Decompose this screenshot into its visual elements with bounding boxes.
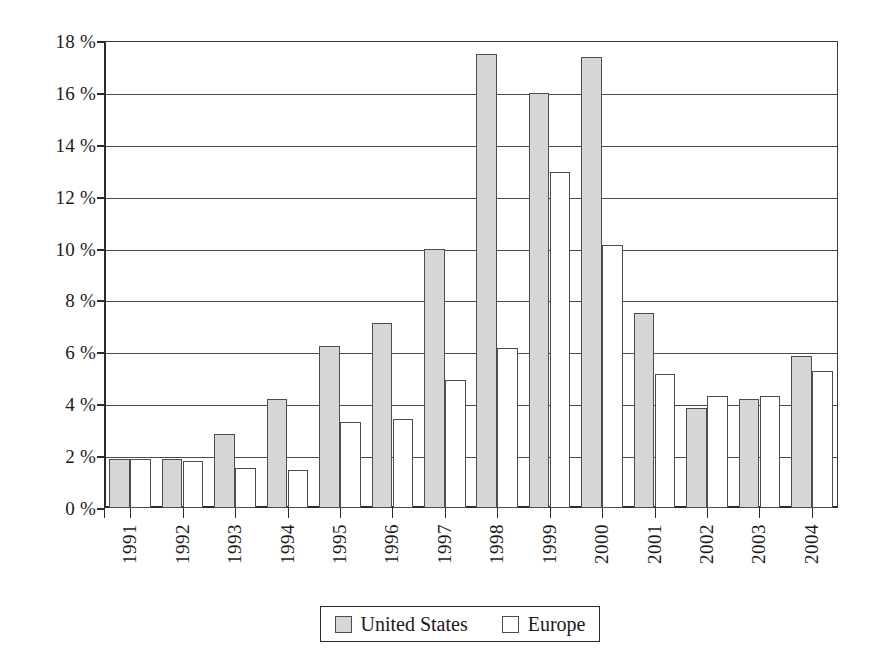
x-axis-tick-label: 2002 — [697, 524, 716, 564]
gridline — [106, 250, 837, 251]
gridline — [106, 146, 837, 147]
x-axis-tick-label: 1997 — [435, 524, 454, 564]
x-axis-tick-mark — [445, 508, 446, 518]
x-axis-tick-label: 1993 — [225, 524, 244, 564]
x-axis-tick-mark — [130, 508, 131, 518]
y-axis-tick-mark — [97, 456, 104, 458]
x-axis-tick-mark — [183, 508, 184, 518]
gridline — [106, 353, 837, 354]
y-axis-tick-label: 10 % — [56, 239, 96, 258]
x-axis-tick-label: 1992 — [173, 524, 192, 564]
legend-entry-united-states: United States — [335, 614, 468, 634]
x-axis-tick-mark — [602, 508, 603, 518]
legend-label-europe: Europe — [528, 614, 586, 634]
y-axis-tick-label: 4 % — [65, 395, 96, 414]
x-axis-tick-mark — [235, 508, 236, 518]
y-axis-tick-mark — [97, 508, 104, 510]
bar-chart: 0 %2 %4 %6 %8 %10 %12 %14 %16 %18 % 1991… — [0, 0, 872, 654]
gridline — [106, 457, 837, 458]
y-axis-tick-label: 14 % — [56, 135, 96, 154]
x-axis-tick-label: 2004 — [802, 524, 821, 564]
x-axis-tick-label: 1991 — [120, 524, 139, 564]
y-axis-tick-mark — [97, 145, 104, 147]
legend-label-united-states: United States — [361, 614, 468, 634]
x-axis-tick-label: 2000 — [592, 524, 611, 564]
legend: United States Europe — [320, 606, 600, 642]
x-axis-tick-label: 2001 — [645, 524, 664, 564]
x-axis-tick-mark — [104, 508, 105, 518]
x-axis-tick-mark — [759, 508, 760, 518]
plot-area — [104, 41, 838, 508]
x-axis-tick-mark — [550, 508, 551, 518]
legend-swatch-united-states — [335, 616, 352, 633]
y-axis-tick-mark — [97, 197, 104, 199]
y-axis-tick-label: 12 % — [56, 187, 96, 206]
x-axis-tick-mark — [392, 508, 393, 518]
y-axis-tick-mark — [97, 93, 104, 95]
x-axis-tick-label: 1998 — [487, 524, 506, 564]
x-axis-tick-label: 1996 — [382, 524, 401, 564]
y-axis-tick-label: 16 % — [56, 83, 96, 102]
x-axis-tick-label: 2003 — [749, 524, 768, 564]
y-axis-tick-label: 6 % — [65, 343, 96, 362]
y-axis-tick-label: 2 % — [65, 447, 96, 466]
y-axis-tick-label: 18 % — [56, 32, 96, 51]
gridline — [106, 405, 837, 406]
x-axis-tick-label: 1999 — [540, 524, 559, 564]
legend-swatch-europe — [502, 616, 519, 633]
y-axis-tick-mark — [97, 300, 104, 302]
x-axis-tick-mark — [812, 508, 813, 518]
y-axis-tick-label: 0 % — [65, 499, 96, 518]
x-axis-tick-mark — [340, 508, 341, 518]
x-axis-tick-mark — [497, 508, 498, 518]
gridline — [106, 94, 837, 95]
y-axis-tick-mark — [97, 404, 104, 406]
y-axis-tick-label: 8 % — [65, 291, 96, 310]
y-axis-tick-mark — [97, 41, 104, 43]
y-axis-tick-mark — [97, 352, 104, 354]
x-axis-tick-label: 1995 — [330, 524, 349, 564]
x-axis-tick-label: 1994 — [278, 524, 297, 564]
x-axis-tick-mark — [655, 508, 656, 518]
gridline — [106, 301, 837, 302]
y-axis-labels: 0 %2 %4 %6 %8 %10 %12 %14 %16 %18 % — [20, 0, 96, 654]
gridline — [106, 198, 837, 199]
legend-entry-europe: Europe — [502, 614, 586, 634]
y-axis-tick-mark — [97, 249, 104, 251]
x-axis-tick-mark — [288, 508, 289, 518]
x-axis-tick-mark — [707, 508, 708, 518]
